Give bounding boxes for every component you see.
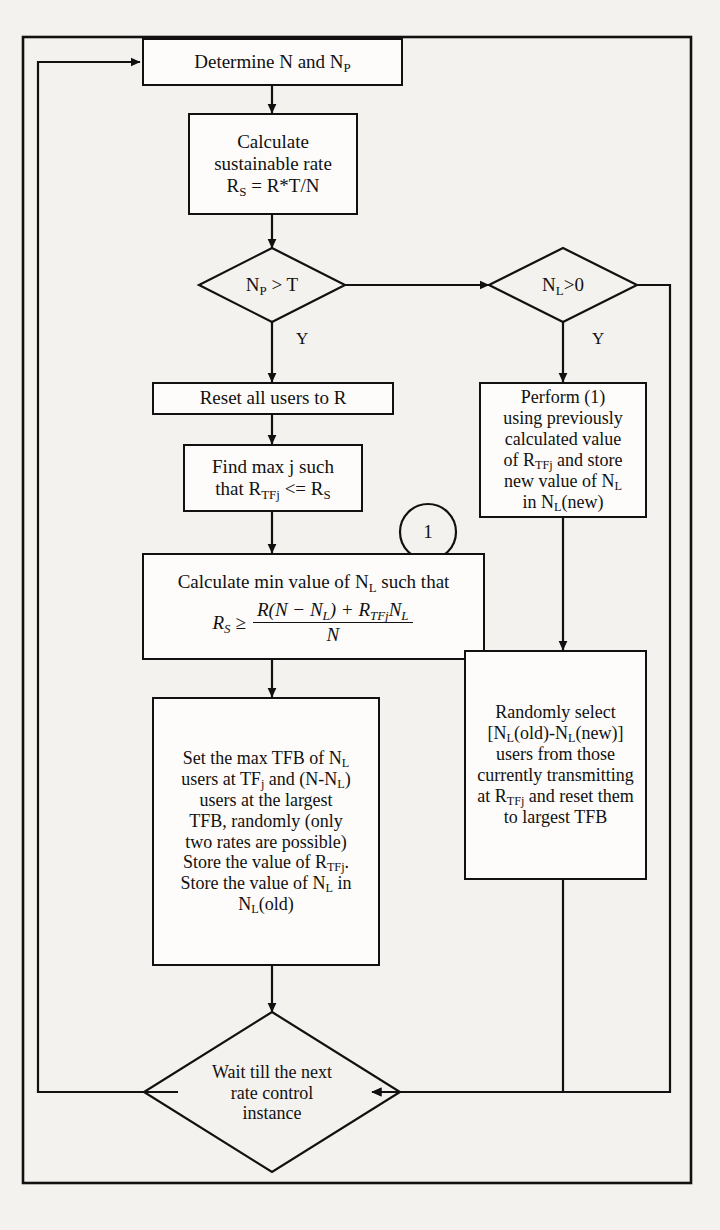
perform-line3: calculated value xyxy=(505,429,621,449)
decision-np-lead: N xyxy=(246,274,260,295)
setmax-line6-lead: Store the value of R xyxy=(183,852,327,872)
setmax-line8-sub: L xyxy=(251,903,258,917)
setmax-line4: TFB, randomly (only xyxy=(189,811,343,831)
findmaxj-line2-mid: <= R xyxy=(280,478,324,499)
setmax-line1-lead: Set the max TFB of N xyxy=(183,748,342,768)
random-line4: currently transmitting xyxy=(477,765,633,785)
node-find-max-j: Find max j such that RTFj <= RS xyxy=(183,444,363,512)
wait-line3: instance xyxy=(243,1103,302,1123)
branch-label-nl-yes: Y xyxy=(592,329,604,349)
perform-line6-sub: L xyxy=(554,500,561,514)
findmaxj-line2-sub: TFj xyxy=(261,487,280,502)
reset-users-text: Reset all users to R xyxy=(196,385,351,411)
random-line2-rest: (new)] xyxy=(575,723,623,743)
random-line5-lead: at R xyxy=(477,786,507,806)
findmaxj-line2-sub2: S xyxy=(323,487,330,502)
flowchart-canvas: Determine N and NP Calculate sustainable… xyxy=(0,0,720,1230)
node-determine: Determine N and NP xyxy=(142,38,403,86)
setmax-line8-lead: N xyxy=(238,894,251,914)
setmax-line7-rest: in xyxy=(333,873,352,893)
eq-num-c-sub: L xyxy=(401,608,408,623)
wait-line1: Wait till the next xyxy=(212,1062,332,1082)
eq-lhs-lead: R xyxy=(212,612,224,633)
perform-line6-lead: in N xyxy=(523,492,555,512)
determine-subscript: P xyxy=(344,60,351,75)
random-line5-rest: and reset them xyxy=(524,786,633,806)
node-calc-min-nl: Calculate min value of NL such that RS ≥… xyxy=(142,553,485,660)
label-decision-np: NP > T xyxy=(212,270,332,300)
eq-fraction: R(N − NL) + RTFjNL N xyxy=(253,599,413,646)
findmaxj-line1: Find max j such xyxy=(212,456,334,477)
node-randomly-select: Randomly select [NL(old)-NL(new)] users … xyxy=(464,650,647,880)
perform-line5-sub: L xyxy=(614,479,621,493)
calc-line3-lead: R xyxy=(227,175,240,196)
decision-np-sub: P xyxy=(260,283,267,298)
perform-line4-lead: of R xyxy=(503,450,535,470)
perform-line5-lead: new value of N xyxy=(504,471,614,491)
setmax-line7-sub: L xyxy=(325,882,332,896)
determine-text: Determine N and N xyxy=(194,51,343,72)
random-line6: to largest TFB xyxy=(504,807,607,827)
random-line2-mid: (old)-N xyxy=(514,723,568,743)
node-set-max-tfb: Set the max TFB of NL users at TFj and (… xyxy=(152,697,380,966)
calcmin-heading-rest: such that xyxy=(377,571,450,592)
node-reset-users: Reset all users to R xyxy=(152,382,394,415)
setmax-line6-rest: . xyxy=(345,852,350,872)
eq-num-b: ) + R xyxy=(330,599,370,620)
eq-num-c: N xyxy=(389,599,402,620)
decision-nl-lead: N xyxy=(542,274,556,295)
perform-line6-rest: (new) xyxy=(562,492,604,512)
eq-num-b-sub: TFj xyxy=(370,608,389,623)
eq-relation: ≥ xyxy=(236,612,246,634)
calcmin-heading-sub: L xyxy=(369,580,377,595)
decision-np-rest: > T xyxy=(267,274,298,295)
connector-1-label: 1 xyxy=(400,517,456,547)
setmax-line2-sub2: L xyxy=(337,777,344,791)
eq-denominator: N xyxy=(253,622,413,646)
wait-line2: rate control xyxy=(231,1083,313,1103)
calcmin-heading-lead: Calculate min value of N xyxy=(178,571,369,592)
setmax-line2-lead: users at TF xyxy=(181,769,261,789)
random-line1: Randomly select xyxy=(495,702,615,722)
setmax-line8-rest: (old) xyxy=(259,894,294,914)
decision-nl-sub: L xyxy=(556,283,564,298)
calc-line2: sustainable rate xyxy=(214,153,332,174)
calc-line3-rest: = R*T/N xyxy=(246,175,319,196)
eq-num-a-sub: L xyxy=(323,608,330,623)
setmax-line5: two rates are possible) xyxy=(185,832,346,852)
decision-nl-rest: >0 xyxy=(564,274,584,295)
calcmin-equation: RS ≥ R(N − NL) + RTFjNL N xyxy=(212,599,414,646)
setmax-line7-lead: Store the value of N xyxy=(181,873,326,893)
perform-line1: Perform (1) xyxy=(521,387,605,407)
node-perform-1: Perform (1) using previously calculated … xyxy=(479,382,647,518)
perform-line2: using previously xyxy=(503,408,623,428)
label-wait-diamond: Wait till the next rate control instance xyxy=(192,1057,352,1129)
node-calculate-rate: Calculate sustainable rate RS = R*T/N xyxy=(188,113,358,215)
calc-line1: Calculate xyxy=(237,131,309,152)
setmax-line2-mid: and (N-N xyxy=(264,769,337,789)
eq-num-a: R(N − N xyxy=(257,599,323,620)
branch-label-np-yes: Y xyxy=(296,329,308,349)
findmaxj-line2-lead: that R xyxy=(215,478,261,499)
label-decision-nl: NL>0 xyxy=(503,270,623,300)
setmax-line3: users at the largest xyxy=(199,790,332,810)
random-line3: users from those xyxy=(496,744,615,764)
perform-line4-rest: and store xyxy=(553,450,623,470)
eq-lhs-sub: S xyxy=(224,620,230,635)
random-line2-lead: [N xyxy=(488,723,507,743)
edge-randomly-to-wait xyxy=(372,880,563,1092)
setmax-line2-rest: ) xyxy=(345,769,351,789)
